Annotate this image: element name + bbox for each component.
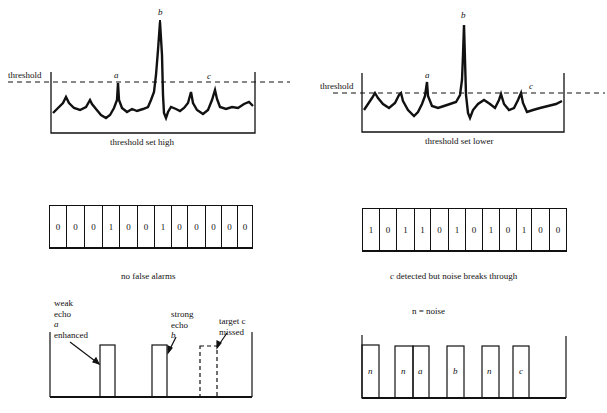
right-peak-label-b: b bbox=[461, 10, 466, 20]
noise-legend: n = noise bbox=[412, 306, 445, 316]
left-bits-caption: no false alarms bbox=[121, 271, 175, 281]
bit-cell: 1 bbox=[363, 209, 380, 250]
bit-cell: 1 bbox=[449, 209, 466, 250]
bit-cell: 1 bbox=[155, 206, 172, 247]
right-noise-trace bbox=[364, 25, 562, 118]
left-pulse-diagram bbox=[50, 332, 252, 397]
bit-cell: 0 bbox=[67, 206, 85, 247]
pulse-label: a bbox=[418, 366, 423, 376]
strong-echo-annotation: strong echo b bbox=[171, 309, 194, 341]
left-noise-trace bbox=[53, 22, 253, 118]
bit-cell: 0 bbox=[206, 206, 222, 247]
bit-cell: 1 bbox=[103, 206, 120, 247]
bit-cell: 0 bbox=[172, 206, 188, 247]
left-peak-label-b: b bbox=[158, 7, 163, 17]
weak-echo-annotation: weak echo a enhanced bbox=[54, 298, 88, 340]
right-bits-caption: c detected but noise breaks through bbox=[390, 271, 517, 281]
pulse-label: n bbox=[368, 366, 373, 376]
bit-cell: 0 bbox=[188, 206, 206, 247]
left-bits-row: 0 0 0 1 0 0 1 0 0 0 0 0 bbox=[49, 205, 253, 249]
bit-cell: 0 bbox=[85, 206, 103, 247]
pulse-label: n bbox=[401, 366, 406, 376]
bit-cell: 0 bbox=[50, 206, 67, 247]
bit-cell: 1 bbox=[483, 209, 500, 250]
right-threshold-label: threshold bbox=[320, 81, 354, 91]
left-trace-caption: threshold set high bbox=[110, 137, 174, 147]
bit-cell: 0 bbox=[500, 209, 517, 250]
missed-target-annotation: target c missed bbox=[219, 316, 246, 337]
bit-cell: 0 bbox=[138, 206, 155, 247]
pulse-label: n bbox=[487, 366, 492, 376]
left-threshold-label: threshold bbox=[8, 70, 42, 80]
pulse-label: c bbox=[519, 366, 523, 376]
bit-cell: 0 bbox=[222, 206, 238, 247]
bit-cell: 0 bbox=[532, 209, 550, 250]
right-peak-label-c: c bbox=[529, 81, 533, 91]
bit-cell: 0 bbox=[238, 206, 252, 247]
left-peak-label-a: a bbox=[114, 70, 119, 80]
right-trace-box bbox=[333, 25, 605, 132]
left-peak-label-c: c bbox=[207, 71, 211, 81]
bit-cell: 0 bbox=[380, 209, 397, 250]
right-pulse-diagram bbox=[362, 335, 566, 398]
bit-cell: 0 bbox=[466, 209, 483, 250]
bit-cell: 1 bbox=[415, 209, 431, 250]
right-peak-label-a: a bbox=[425, 70, 430, 80]
pulse-label: b bbox=[453, 366, 458, 376]
right-trace-caption: threshold set lower bbox=[425, 136, 493, 146]
bit-cell: 0 bbox=[550, 209, 566, 250]
left-trace-box bbox=[8, 20, 290, 133]
bit-cell: 0 bbox=[120, 206, 138, 247]
bit-cell: 1 bbox=[397, 209, 415, 250]
bit-cell: 1 bbox=[517, 209, 532, 250]
right-bits-row: 1 0 1 1 0 1 0 1 0 1 0 0 bbox=[362, 208, 567, 252]
bit-cell: 0 bbox=[431, 209, 449, 250]
